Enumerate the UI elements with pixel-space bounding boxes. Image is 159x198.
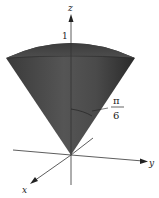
z-axis-label: z: [67, 3, 73, 13]
z-axis-arrow-icon: [69, 14, 74, 22]
y-axis: [71, 155, 143, 161]
x-axis-label: x: [22, 185, 27, 195]
x-axis-arrow-icon: [30, 177, 38, 184]
cone-diagram: z y x 1 π 6: [0, 0, 159, 198]
y-axis-arrow-icon: [140, 159, 148, 165]
radius-label: 1: [62, 31, 68, 41]
x-axis: [34, 155, 71, 181]
y-axis-label: y: [148, 158, 155, 168]
angle-numerator: π: [113, 95, 120, 106]
angle-denominator: 6: [113, 110, 119, 121]
y-axis-back: [13, 150, 71, 155]
